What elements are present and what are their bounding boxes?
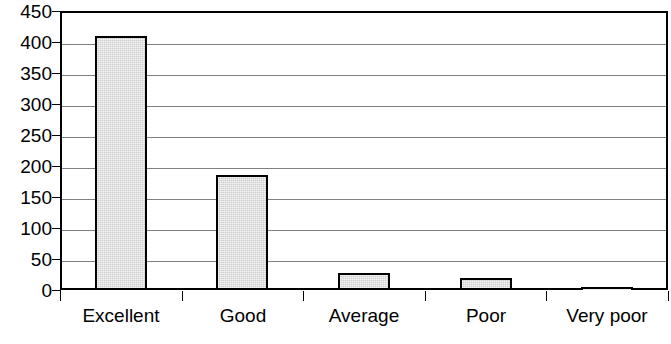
bar-average xyxy=(338,273,390,290)
y-axis-tick-label: 400 xyxy=(4,33,52,52)
x-axis-tick-mark xyxy=(182,291,183,301)
bar-excellent xyxy=(95,36,147,290)
x-axis-category-label: Poor xyxy=(425,305,547,327)
x-axis-tick-mark xyxy=(60,291,61,301)
y-axis-tick-label: 200 xyxy=(4,157,52,176)
bar-chart: 450400350300250200150100500 ExcellentGoo… xyxy=(0,0,671,344)
y-axis-tick-label: 100 xyxy=(4,219,52,238)
bar-very-poor xyxy=(581,287,633,290)
x-axis-tick-mark xyxy=(668,291,669,301)
x-axis-tick-mark xyxy=(303,291,304,301)
bar-good xyxy=(216,175,268,290)
bar-poor xyxy=(460,278,512,290)
y-axis-tick-label: 250 xyxy=(4,126,52,145)
x-axis-tick-mark xyxy=(546,291,547,301)
y-axis-tick-label: 50 xyxy=(4,250,52,269)
y-axis-tick-label: 0 xyxy=(4,281,52,300)
y-axis-tick-label: 450 xyxy=(4,2,52,21)
bars-layer xyxy=(60,11,668,290)
y-axis-labels: 450400350300250200150100500 xyxy=(0,0,52,344)
x-axis-tick-mark xyxy=(425,291,426,301)
x-axis-category-label: Average xyxy=(303,305,425,327)
y-axis-tick-label: 150 xyxy=(4,188,52,207)
x-axis-category-label: Very poor xyxy=(546,305,668,327)
y-axis-tick-label: 300 xyxy=(4,95,52,114)
y-axis-tick-label: 350 xyxy=(4,64,52,83)
x-axis-category-label: Good xyxy=(182,305,304,327)
x-axis-labels: ExcellentGoodAveragePoorVery poor xyxy=(60,305,668,335)
x-axis-category-label: Excellent xyxy=(60,305,182,327)
